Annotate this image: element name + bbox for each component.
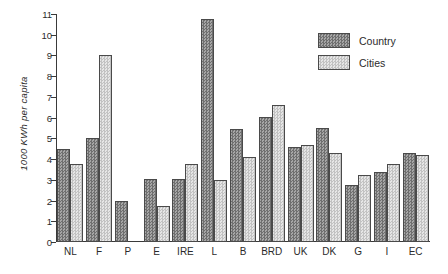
x-axis-label-brd: BRD [257, 246, 286, 257]
bar-brd-country [259, 117, 272, 242]
bar-chart: 1000 KWh per capita 01234567891011 NLFPE… [0, 0, 448, 274]
bar-uk-cities [301, 145, 314, 242]
bar-nl-country [57, 149, 70, 242]
bar-b-country [230, 129, 243, 242]
bar-e-cities [157, 206, 170, 242]
bar-dk-cities [329, 153, 342, 242]
y-tick-label: 1 [47, 216, 52, 227]
x-axis-label-nl: NL [56, 246, 85, 257]
bar-nl-cities [70, 164, 83, 242]
y-tick-label: 0 [47, 237, 52, 248]
bar-group [114, 14, 143, 242]
bar-f-cities [99, 55, 112, 242]
bar-ire-country [172, 179, 185, 242]
legend-swatch-country [318, 33, 350, 48]
bar-ire-cities [185, 164, 198, 242]
bar-p-country [115, 201, 128, 242]
bar-group [200, 14, 229, 242]
y-tick-label: 4 [47, 154, 52, 165]
legend-label-cities: Cities [359, 57, 385, 69]
y-tick-label: 10 [41, 29, 52, 40]
y-tick-label: 5 [47, 133, 52, 144]
y-tick-label: 3 [47, 174, 52, 185]
bar-l-cities [214, 180, 227, 242]
bar-group [56, 14, 85, 242]
bar-group [142, 14, 171, 242]
chart-legend: Country Cities [318, 33, 428, 77]
bar-group [286, 14, 315, 242]
bar-group [171, 14, 200, 242]
bar-i-country [374, 172, 387, 242]
bar-l-country [201, 19, 214, 242]
bar-b-cities [243, 157, 256, 242]
bar-ec-cities [416, 155, 429, 242]
x-axis-label-b: B [229, 246, 258, 257]
bar-uk-country [288, 147, 301, 242]
bar-brd-cities [272, 105, 285, 242]
y-tick-label: 9 [47, 50, 52, 61]
bar-group [85, 14, 114, 242]
x-axis-label-f: F [85, 246, 114, 257]
x-axis-label-ire: IRE [171, 246, 200, 257]
bar-f-country [86, 138, 99, 242]
legend-swatch-cities [318, 55, 350, 70]
bar-group [229, 14, 258, 242]
x-axis-label-g: G [344, 246, 373, 257]
legend-item-cities: Cities [318, 55, 428, 70]
bar-group [257, 14, 286, 242]
bar-i-cities [387, 164, 400, 242]
x-axis-label-p: P [114, 246, 143, 257]
legend-label-country: Country [359, 35, 396, 47]
x-axis-label-ec: EC [401, 246, 430, 257]
x-axis-label-uk: UK [286, 246, 315, 257]
bar-g-cities [358, 175, 371, 242]
y-tick-label: 6 [47, 112, 52, 123]
bar-ec-country [403, 153, 416, 242]
x-axis-label-dk: DK [315, 246, 344, 257]
y-tick-label: 7 [47, 91, 52, 102]
legend-item-country: Country [318, 33, 428, 48]
y-tick-label: 8 [47, 71, 52, 82]
x-axis-label-e: E [142, 246, 171, 257]
y-axis-title: 1000 KWh per capita [18, 49, 29, 199]
x-axis-labels: NLFPEIRELBBRDUKDKGIEC [56, 246, 430, 266]
bar-dk-country [316, 128, 329, 242]
y-tick-label: 11 [42, 9, 52, 20]
bar-e-country [144, 179, 157, 242]
x-axis-label-l: L [200, 246, 229, 257]
bar-g-country [345, 185, 358, 242]
y-tick-label: 2 [47, 195, 52, 206]
x-axis-label-i: I [372, 246, 401, 257]
